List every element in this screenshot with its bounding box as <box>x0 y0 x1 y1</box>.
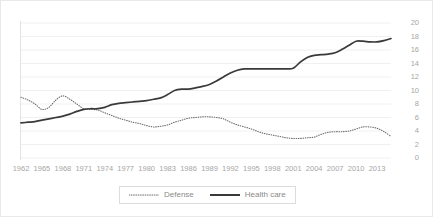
y-axis-tick-label: 18 <box>397 33 419 41</box>
x-axis-tick-label: 1989 <box>201 164 218 173</box>
x-axis-tick-label: 1983 <box>159 164 176 173</box>
y-axis-tick-label: 4 <box>397 127 419 135</box>
y-axis-tick-label: 6 <box>397 114 419 122</box>
x-axis-tick-label: 2013 <box>369 164 386 173</box>
legend-item-defense[interactable]: Defense <box>129 190 194 200</box>
gridlines <box>21 23 391 158</box>
legend-swatch-dotted <box>129 192 159 198</box>
y-axis-tick-label: 0 <box>397 154 419 162</box>
legend-label: Health care <box>245 190 286 200</box>
y-axis-tick-label: 2 <box>397 141 419 149</box>
legend-swatch-solid <box>210 192 240 198</box>
x-axis-tick-label: 1962 <box>13 164 30 173</box>
x-axis-tick-label: 1980 <box>138 164 155 173</box>
x-axis-tick-label: 1977 <box>117 164 134 173</box>
series-lines <box>21 39 391 139</box>
x-axis-tick-label: 1968 <box>55 164 72 173</box>
x-axis-tick-label: 1992 <box>222 164 239 173</box>
chart-plot-svg <box>21 23 391 158</box>
x-axis-tick-label: 2010 <box>348 164 365 173</box>
legend-label: Defense <box>164 190 194 200</box>
y-axis-tick-label: 20 <box>397 19 419 27</box>
y-axis-tick-label: 12 <box>397 73 419 81</box>
y-axis-tick-labels: 20181614121086420 <box>397 23 427 158</box>
y-axis-tick-label: 16 <box>397 46 419 54</box>
x-axis-tick-label: 1974 <box>96 164 113 173</box>
series-line-health-care <box>21 39 391 123</box>
legend-item-health-care[interactable]: Health care <box>210 190 286 200</box>
x-axis-tick-labels: 1962196519681971197419771980198319861989… <box>21 164 391 176</box>
x-axis-tick-label: 2007 <box>327 164 344 173</box>
chart-legend: DefenseHealth care <box>119 186 296 204</box>
x-axis-tick-label: 1965 <box>34 164 51 173</box>
y-axis-tick-label: 14 <box>397 60 419 68</box>
plot-area <box>21 23 391 158</box>
x-axis-tick-label: 1998 <box>264 164 281 173</box>
chart-figure: 20181614121086420 1962196519681971197419… <box>0 0 433 217</box>
y-axis-tick-label: 8 <box>397 100 419 108</box>
x-axis-tick-label: 1995 <box>243 164 260 173</box>
x-axis-tick-label: 2001 <box>285 164 302 173</box>
x-axis-tick-label: 1986 <box>180 164 197 173</box>
x-axis-tick-label: 1971 <box>75 164 92 173</box>
x-axis-tick-label: 2004 <box>306 164 323 173</box>
y-axis-tick-label: 10 <box>397 87 419 95</box>
